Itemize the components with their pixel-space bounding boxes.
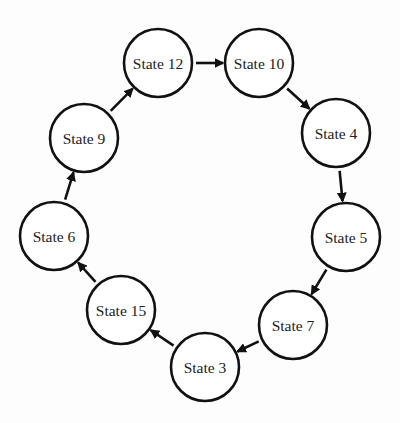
state-node-s3: State 3	[171, 333, 239, 401]
state-label: State 5	[325, 229, 368, 246]
arrow-s7-to-s3	[237, 341, 258, 351]
arrow-s3-to-s15	[151, 330, 174, 345]
arrow-s15-to-s6	[78, 263, 95, 282]
state-label: State 4	[315, 125, 358, 142]
arrow-s6-to-s9	[65, 172, 73, 199]
state-label: State 10	[234, 55, 285, 72]
state-label: State 12	[133, 55, 183, 72]
arrow-s9-to-s12	[111, 89, 133, 111]
state-node-s5: State 5	[312, 203, 380, 271]
state-node-s12: State 12	[124, 29, 192, 97]
arrow-s5-to-s7	[312, 270, 327, 295]
state-node-s10: State 10	[225, 29, 293, 97]
diagram-svg: State 12State 10State 4State 5State 7Sta…	[0, 0, 400, 423]
state-node-s9: State 9	[50, 104, 118, 172]
state-label: State 3	[184, 359, 227, 376]
state-node-s15: State 15	[87, 276, 155, 344]
arrow-s10-to-s4	[287, 89, 309, 109]
state-node-s6: State 6	[20, 202, 88, 270]
state-label: State 6	[33, 228, 76, 245]
arrow-s4-to-s5	[340, 171, 343, 201]
state-node-s4: State 4	[302, 99, 370, 167]
state-label: State 15	[96, 302, 147, 319]
state-label: State 9	[63, 130, 106, 147]
state-node-s7: State 7	[259, 291, 327, 359]
state-diagram: State 12State 10State 4State 5State 7Sta…	[0, 0, 400, 423]
state-label: State 7	[272, 317, 315, 334]
nodes-group: State 12State 10State 4State 5State 7Sta…	[20, 29, 380, 401]
